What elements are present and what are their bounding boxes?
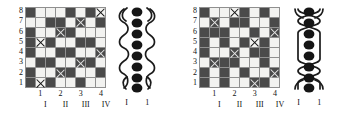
pattern-cell (46, 68, 55, 77)
pattern-cell (96, 48, 105, 57)
row-label: 8 (19, 7, 23, 15)
pattern-cell (56, 18, 65, 27)
pattern-grid-right (199, 7, 280, 88)
pattern-cell (26, 48, 35, 57)
pattern-cell (66, 28, 75, 37)
pattern-cell (270, 38, 279, 47)
pattern-cell (26, 58, 35, 67)
roman-label-axis-left: IIIIIIIV (25, 100, 106, 111)
row-label: 1 (19, 79, 23, 87)
pattern-cell (86, 28, 95, 37)
pattern-cell (230, 28, 239, 37)
cross-icon (96, 48, 105, 57)
pattern-cell (250, 8, 259, 17)
cord-svg-left (112, 5, 164, 93)
row-label: 4 (193, 48, 197, 56)
pattern-cell (26, 68, 35, 77)
pattern-cell (96, 8, 105, 17)
pattern-cell (56, 48, 65, 57)
cord-label: I (125, 98, 128, 107)
pattern-cell (210, 38, 219, 47)
row-label: 5 (19, 38, 23, 46)
pattern-cell (56, 68, 65, 77)
pattern-cell (46, 78, 55, 87)
pattern-cell (36, 48, 45, 57)
pattern-cell (56, 8, 65, 17)
row-label: 1 (193, 79, 197, 87)
pattern-cell (250, 48, 259, 57)
pattern-cell (250, 38, 259, 47)
column-label: 3 (253, 89, 257, 98)
pattern-cell (210, 48, 219, 57)
pattern-cell (220, 78, 229, 87)
pattern-cell (86, 58, 95, 67)
pattern-cell (270, 68, 279, 77)
pattern-cell (270, 78, 279, 87)
pattern-cell (270, 48, 279, 57)
pattern-cell (250, 78, 259, 87)
pattern-cell (200, 8, 209, 17)
cross-icon (270, 28, 279, 37)
pattern-cell (210, 68, 219, 77)
row-label-axis-right: 87654321 (184, 7, 197, 87)
pattern-cell (76, 48, 85, 57)
column-label: 2 (232, 89, 236, 98)
roman-label: IV (102, 100, 110, 109)
pattern-cell (240, 38, 249, 47)
cross-icon (210, 18, 219, 27)
pattern-cell (56, 78, 65, 87)
pattern-cell (46, 8, 55, 17)
cross-icon (76, 58, 85, 67)
column-label: 2 (58, 89, 62, 98)
panel-left: 87654321 1234 IIIIIIIV (0, 0, 173, 124)
pattern-cell (86, 38, 95, 47)
cross-icon (230, 8, 239, 17)
pattern-cell (250, 58, 259, 67)
row-label: 4 (19, 48, 23, 56)
pattern-cell (66, 78, 75, 87)
pattern-cell (200, 48, 209, 57)
cord-diagram-left (112, 5, 164, 93)
pattern-cell (66, 18, 75, 27)
pattern-cell (240, 8, 249, 17)
pattern-cell (86, 18, 95, 27)
cord-label-axis-right: I1 (284, 98, 336, 109)
cross-icon (250, 78, 259, 87)
pattern-cell (56, 28, 65, 37)
pattern-cell (76, 18, 85, 27)
pattern-cell (200, 28, 209, 37)
cord-label: I (297, 98, 300, 107)
pattern-cell (76, 78, 85, 87)
pattern-cell (210, 18, 219, 27)
column-label: 3 (79, 89, 83, 98)
pattern-cell (230, 8, 239, 17)
pattern-cell (220, 38, 229, 47)
cord-label: 1 (317, 98, 321, 107)
roman-label: III (256, 100, 264, 109)
pattern-cell (210, 28, 219, 37)
cross-icon (230, 48, 239, 57)
pattern-cell (220, 8, 229, 17)
pattern-grid-left (25, 7, 106, 88)
pattern-cell (36, 58, 45, 67)
column-label: 4 (99, 89, 103, 98)
pattern-cell (240, 18, 249, 27)
pattern-cell (200, 78, 209, 87)
pattern-cell (240, 28, 249, 37)
pattern-cell (230, 78, 239, 87)
pattern-cell (56, 38, 65, 47)
pattern-cell (66, 58, 75, 67)
column-label-axis-right: 1234 (199, 89, 280, 99)
pattern-cell (270, 58, 279, 67)
pattern-cell (250, 28, 259, 37)
row-label: 3 (193, 58, 197, 66)
pattern-cell (26, 28, 35, 37)
pattern-cell (240, 48, 249, 57)
pattern-cell (36, 38, 45, 47)
roman-label: II (237, 100, 242, 109)
pattern-cell (220, 18, 229, 27)
pattern-cell (220, 58, 229, 67)
row-label: 7 (19, 17, 23, 25)
pattern-cell (96, 38, 105, 47)
pattern-cell (260, 18, 269, 27)
